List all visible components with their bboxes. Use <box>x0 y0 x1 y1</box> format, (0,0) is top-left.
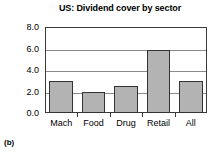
x-axis-tick-label: Retail <box>147 118 170 128</box>
bar <box>147 50 171 113</box>
x-axis-tick-labels: MachFoodDrugRetailAll <box>45 118 207 132</box>
y-axis-tick-label: 0.0 <box>26 109 39 118</box>
x-axis-tick-mark <box>77 113 78 117</box>
y-axis-tick-labels: 0.02.04.06.08.0 <box>0 27 42 113</box>
bar <box>49 81 73 113</box>
x-axis-tick-mark <box>175 113 176 117</box>
bar <box>82 92 106 114</box>
figure-caption: (b) <box>4 138 14 148</box>
chart-title: US: Dividend cover by sector <box>30 3 210 13</box>
x-axis-tick-mark <box>142 113 143 117</box>
y-axis-tick-label: 2.0 <box>26 87 39 96</box>
x-axis-tick-label: All <box>186 118 196 128</box>
x-axis-tick-label: Food <box>83 118 104 128</box>
bars-layer <box>45 27 207 113</box>
y-axis-tick-label: 6.0 <box>26 44 39 53</box>
bar <box>114 86 138 113</box>
chart-figure: US: Dividend cover by sector 0.02.04.06.… <box>0 0 220 157</box>
x-axis-tick-label: Mach <box>50 118 72 128</box>
x-axis-tick-label: Drug <box>116 118 136 128</box>
bar <box>179 81 203 113</box>
x-axis-tick-mark <box>110 113 111 117</box>
y-axis-tick-label: 8.0 <box>26 23 39 32</box>
y-axis-tick-label: 4.0 <box>26 66 39 75</box>
